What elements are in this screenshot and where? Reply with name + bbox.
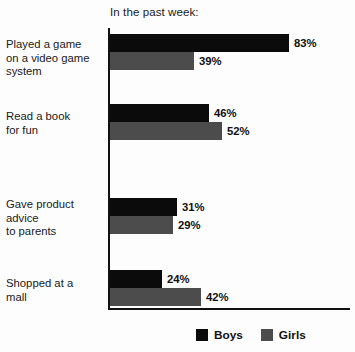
- bar-chart: In the past week: Played a gameon a vide…: [0, 0, 355, 352]
- category-label-line: to parents: [6, 225, 106, 239]
- legend-item-girls: Girls: [261, 328, 306, 342]
- category-label-line: Shopped at a: [6, 277, 106, 291]
- category-label-line: mall: [6, 291, 106, 305]
- category-label-line: Gave product: [6, 198, 106, 212]
- bar-value-label: 24%: [167, 273, 190, 285]
- bar-value-label: 52%: [227, 125, 250, 137]
- chart-legend: Boys Girls: [196, 328, 306, 342]
- legend-item-boys: Boys: [196, 328, 243, 342]
- category-label-line: advice: [6, 212, 106, 226]
- bar-boys: 46%: [110, 104, 269, 122]
- category-label-line: Read a book: [6, 110, 106, 124]
- bar-rect: [110, 288, 201, 306]
- bar-boys: 24%: [110, 270, 222, 288]
- bar-girls: 29%: [110, 216, 233, 234]
- category-label: Shopped at amall: [6, 277, 106, 304]
- bar-value-label: 31%: [182, 201, 205, 213]
- bar-boys: 31%: [110, 198, 237, 216]
- category-label-line: for fun: [6, 124, 106, 138]
- bar-rect: [110, 198, 177, 216]
- category-label-line: system: [6, 65, 106, 79]
- legend-label-boys: Boys: [214, 328, 243, 342]
- bar-rect: [110, 216, 173, 234]
- bar-rect: [110, 104, 209, 122]
- bar-girls: 39%: [110, 52, 254, 70]
- bar-value-label: 46%: [214, 107, 237, 119]
- bar-value-label: 39%: [199, 55, 222, 67]
- category-label: Played a gameon a video gamesystem: [6, 38, 106, 79]
- legend-swatch-girls-icon: [261, 329, 273, 341]
- bar-boys: 83%: [110, 34, 349, 52]
- bar-rect: [110, 122, 222, 140]
- category-label-line: Played a game: [6, 38, 106, 52]
- bar-value-label: 29%: [178, 219, 201, 231]
- category-label: Gave productadviceto parents: [6, 198, 106, 239]
- bar-value-label: 42%: [206, 291, 229, 303]
- bar-value-label: 83%: [294, 37, 317, 49]
- bar-girls: 42%: [110, 288, 261, 306]
- bar-rect: [110, 52, 194, 70]
- bar-girls: 52%: [110, 122, 282, 140]
- category-label-line: on a video game: [6, 52, 106, 66]
- category-label: Read a bookfor fun: [6, 110, 106, 137]
- legend-swatch-boys-icon: [196, 329, 208, 341]
- bar-rect: [110, 34, 289, 52]
- bar-rect: [110, 270, 162, 288]
- legend-label-girls: Girls: [279, 328, 306, 342]
- plot-area: Played a gameon a video gamesystem83%39%…: [0, 0, 355, 352]
